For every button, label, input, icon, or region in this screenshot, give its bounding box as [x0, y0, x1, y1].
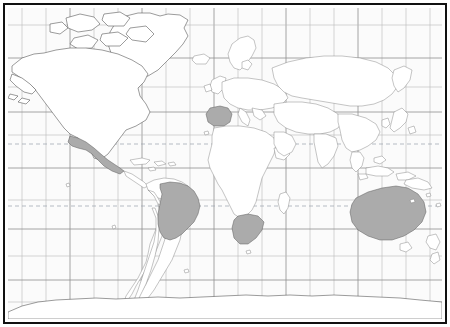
country-spain-portugal — [206, 106, 232, 126]
world-map-figure — [0, 0, 450, 327]
world-map-svg — [8, 8, 442, 319]
map-plot-area — [8, 8, 442, 319]
